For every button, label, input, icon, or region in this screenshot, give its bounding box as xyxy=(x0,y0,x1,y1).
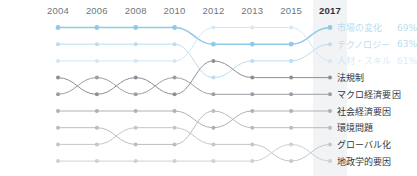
legend-row-1[interactable]: テクノロジー63% xyxy=(337,38,417,50)
data-point[interactable] xyxy=(211,92,215,96)
data-point[interactable] xyxy=(328,92,332,96)
data-point[interactable] xyxy=(56,42,60,46)
data-point[interactable] xyxy=(133,25,138,30)
legend-label: 人材・スキル xyxy=(337,54,392,67)
data-point[interactable] xyxy=(250,76,254,80)
legend-label: グローバル化 xyxy=(337,138,392,151)
data-point[interactable] xyxy=(173,109,177,113)
legend-row-0[interactable]: 市場の変化69% xyxy=(337,22,417,34)
data-point[interactable] xyxy=(95,92,99,96)
data-point[interactable] xyxy=(250,42,255,47)
data-point[interactable] xyxy=(289,59,293,63)
data-point[interactable] xyxy=(328,159,332,163)
data-point[interactable] xyxy=(250,92,254,96)
data-point[interactable] xyxy=(250,159,254,163)
legend-row-6[interactable]: 環境問題 xyxy=(337,122,417,134)
data-point[interactable] xyxy=(289,76,293,80)
legend-row-3[interactable]: 法規制 xyxy=(337,72,417,84)
legend-label: 法規制 xyxy=(337,71,364,84)
data-point[interactable] xyxy=(250,142,254,146)
legend-row-8[interactable]: 地政学的要因 xyxy=(337,155,417,167)
series-line-4[interactable] xyxy=(58,78,330,95)
legend-value: 69% xyxy=(397,23,417,33)
data-point[interactable] xyxy=(250,59,254,63)
data-point[interactable] xyxy=(134,59,138,63)
data-point[interactable] xyxy=(56,76,60,80)
legend-label: 市場の変化 xyxy=(337,21,383,34)
series-line-0[interactable] xyxy=(58,28,330,45)
legend-row-7[interactable]: グローバル化 xyxy=(337,138,417,150)
data-point[interactable] xyxy=(289,42,294,47)
legend-row-4[interactable]: マクロ経済要因 xyxy=(337,88,417,100)
data-point[interactable] xyxy=(134,142,138,146)
data-point[interactable] xyxy=(173,76,177,80)
data-point[interactable] xyxy=(134,92,138,96)
data-point[interactable] xyxy=(211,59,215,63)
data-point[interactable] xyxy=(328,109,332,113)
data-point[interactable] xyxy=(289,92,293,96)
data-point[interactable] xyxy=(211,126,215,130)
data-point[interactable] xyxy=(328,142,332,146)
series-line-5[interactable] xyxy=(58,111,330,128)
series-line-8[interactable] xyxy=(58,144,330,161)
data-point[interactable] xyxy=(328,42,332,46)
legend-label: 社会経済要因 xyxy=(337,105,392,118)
legend-value: 63% xyxy=(397,39,417,49)
data-point[interactable] xyxy=(211,142,215,146)
data-point[interactable] xyxy=(95,42,99,46)
data-point[interactable] xyxy=(173,159,177,163)
data-point[interactable] xyxy=(211,76,215,80)
data-point[interactable] xyxy=(134,76,138,80)
data-point[interactable] xyxy=(172,25,177,30)
legend-label: 地政学的要因 xyxy=(337,155,392,168)
data-point[interactable] xyxy=(289,142,293,146)
data-point[interactable] xyxy=(250,126,254,130)
data-point[interactable] xyxy=(56,159,60,163)
data-point[interactable] xyxy=(94,25,99,30)
data-point[interactable] xyxy=(56,142,60,146)
legend-label: マクロ経済要因 xyxy=(337,88,401,101)
data-point[interactable] xyxy=(95,76,99,80)
legend-row-5[interactable]: 社会経済要因 xyxy=(337,105,417,117)
data-point[interactable] xyxy=(173,126,177,130)
data-point[interactable] xyxy=(328,76,332,80)
data-point[interactable] xyxy=(250,109,254,113)
data-point[interactable] xyxy=(289,109,293,113)
data-point[interactable] xyxy=(95,126,99,130)
data-point[interactable] xyxy=(173,59,177,63)
data-point[interactable] xyxy=(134,42,138,46)
data-point[interactable] xyxy=(134,159,138,163)
legend-label: テクノロジー xyxy=(337,38,391,51)
data-point[interactable] xyxy=(328,126,332,130)
data-point[interactable] xyxy=(289,26,293,30)
data-point[interactable] xyxy=(95,109,99,113)
legend-label: 環境問題 xyxy=(337,121,373,134)
data-point[interactable] xyxy=(173,92,177,96)
legend-value: 61% xyxy=(397,56,417,66)
data-point[interactable] xyxy=(173,42,177,46)
data-point[interactable] xyxy=(211,26,215,30)
data-point[interactable] xyxy=(211,109,215,113)
data-point[interactable] xyxy=(134,109,138,113)
data-point[interactable] xyxy=(289,159,293,163)
data-point[interactable] xyxy=(211,42,216,47)
data-point[interactable] xyxy=(173,142,177,146)
data-point[interactable] xyxy=(289,126,293,130)
data-point[interactable] xyxy=(328,25,333,30)
bump-chart: 20042006200820102012201320152017 市場の変化69… xyxy=(0,0,417,176)
data-point[interactable] xyxy=(95,59,99,63)
data-point[interactable] xyxy=(250,26,254,30)
data-point[interactable] xyxy=(95,159,99,163)
legend-row-2[interactable]: 人材・スキル61% xyxy=(337,55,417,67)
data-point[interactable] xyxy=(134,126,138,130)
data-point[interactable] xyxy=(56,25,61,30)
data-point[interactable] xyxy=(56,92,60,96)
data-point[interactable] xyxy=(211,159,215,163)
series-legend: 市場の変化69%テクノロジー63%人材・スキル61%法規制マクロ経済要因社会経済… xyxy=(337,0,417,176)
data-point[interactable] xyxy=(56,126,60,130)
data-point[interactable] xyxy=(95,142,99,146)
data-point[interactable] xyxy=(56,59,60,63)
data-point[interactable] xyxy=(328,59,332,63)
data-point[interactable] xyxy=(56,109,60,113)
